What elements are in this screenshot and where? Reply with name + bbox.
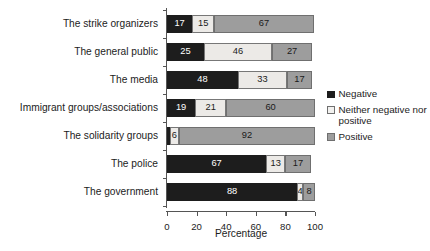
- bar-value-label: 92: [242, 131, 252, 140]
- plot-area: 1715672546274833171921606926713178848020…: [167, 10, 315, 206]
- y-axis-tick: [163, 206, 167, 207]
- bar-segment: 8: [303, 183, 315, 201]
- bar-value-label: 27: [287, 47, 297, 56]
- bar-segment: 21: [195, 99, 226, 117]
- bar-row: 692: [167, 127, 315, 145]
- legend-swatch-icon: [327, 106, 335, 114]
- bar-segment: 17: [287, 71, 312, 89]
- bar-value-label: 13: [271, 159, 281, 168]
- y-axis-tick: [163, 178, 167, 179]
- y-axis-label: The general public: [74, 38, 158, 66]
- bar-segment: 19: [167, 99, 195, 117]
- legend-label: Neither negative nor positive: [339, 104, 428, 127]
- bar-value-label: 21: [205, 103, 215, 112]
- bar-value-label: 48: [197, 75, 207, 84]
- stacked-bar-chart: The strike organizersThe general publicT…: [0, 0, 430, 251]
- bar-value-label: 4: [298, 187, 303, 196]
- y-axis-label: The solidarity groups: [63, 122, 158, 150]
- y-axis-label: The media: [110, 66, 158, 94]
- bar-segment: 60: [226, 99, 315, 117]
- x-axis-tick: [226, 212, 227, 216]
- x-axis-title: Percentage: [167, 228, 315, 239]
- y-axis-tick: [163, 150, 167, 151]
- bar-segment: 17: [285, 155, 310, 173]
- bar-value-label: 6: [172, 131, 177, 140]
- x-axis-tick: [167, 212, 168, 216]
- bar-row: 254627: [167, 43, 315, 61]
- y-axis-label: The police: [111, 150, 158, 178]
- x-axis-tick: [285, 212, 286, 216]
- x-axis-tick: [256, 212, 257, 216]
- x-axis-tick: [315, 212, 316, 216]
- bar-value-label: 15: [198, 19, 208, 28]
- bar-value-label: 33: [257, 75, 267, 84]
- bar-segment: 92: [179, 127, 315, 145]
- legend-swatch-icon: [327, 133, 335, 141]
- legend-item: Negative: [327, 88, 427, 100]
- bar-segment: 67: [214, 15, 313, 33]
- legend-swatch-icon: [327, 91, 335, 99]
- y-axis-tick: [163, 94, 167, 95]
- bar-value-label: 67: [211, 159, 221, 168]
- bar-segment: 88: [167, 183, 297, 201]
- y-axis-label: The government: [84, 178, 158, 206]
- y-axis-tick: [163, 122, 167, 123]
- bar-segment: 46: [204, 43, 272, 61]
- bar-segment: 67: [167, 155, 266, 173]
- bar-value-label: 88: [227, 187, 237, 196]
- legend-label: Positive: [339, 131, 373, 143]
- legend-label: Negative: [339, 88, 378, 100]
- bar-segment: 13: [266, 155, 285, 173]
- bar-segment: 17: [167, 15, 192, 33]
- bar-segment: 25: [167, 43, 204, 61]
- bar-value-label: 46: [233, 47, 243, 56]
- bar-value-label: 17: [294, 75, 304, 84]
- bar-row: 192160: [167, 99, 315, 117]
- bar-row: 671317: [167, 155, 315, 173]
- y-axis-tick: [163, 10, 167, 11]
- bar-segment: 15: [192, 15, 214, 33]
- bar-segment: 33: [238, 71, 287, 89]
- y-axis-label: The strike organizers: [63, 10, 158, 38]
- bar-row: 483317: [167, 71, 315, 89]
- x-axis-line: [166, 211, 315, 212]
- bar-segment: 48: [167, 71, 238, 89]
- bar-value-label: 60: [265, 103, 275, 112]
- bar-segment: 27: [272, 43, 312, 61]
- y-axis-tick: [163, 66, 167, 67]
- legend-item: Neither negative nor positive: [327, 104, 427, 127]
- bar-value-label: 17: [174, 19, 184, 28]
- bar-row: 8848: [167, 183, 315, 201]
- legend-item: Positive: [327, 131, 427, 143]
- y-axis-category-labels: The strike organizersThe general publicT…: [0, 10, 163, 206]
- bar-segment: 6: [170, 127, 179, 145]
- bar-value-label: 17: [293, 159, 303, 168]
- chart-legend: NegativeNeither negative nor positivePos…: [327, 88, 427, 146]
- x-axis-tick: [197, 212, 198, 216]
- bar-value-label: 8: [306, 187, 311, 196]
- bar-value-label: 67: [259, 19, 269, 28]
- y-axis-tick: [163, 38, 167, 39]
- bar-row: 171567: [167, 15, 315, 33]
- bar-value-label: 19: [176, 103, 186, 112]
- y-axis-label: Immigrant groups/associations: [20, 94, 158, 122]
- bar-value-label: 25: [180, 47, 190, 56]
